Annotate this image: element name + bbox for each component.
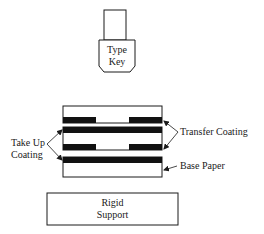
type-key-label: Type Key <box>99 44 135 68</box>
base-paper-label: Base Paper <box>180 160 225 172</box>
transfer-coating-band-top <box>129 117 162 123</box>
type-key-stem <box>104 10 126 40</box>
take-up-coating-band-middle <box>63 127 162 133</box>
rigid-support-line2: Support <box>47 209 178 221</box>
transfer-coating-band-middle <box>63 144 96 150</box>
transfer-coating-label: Transfer Coating <box>180 126 248 138</box>
take-up-line1: Take Up <box>11 137 45 149</box>
rigid-support-line1: Rigid <box>47 197 178 209</box>
take-up-coating-arrows <box>47 130 62 160</box>
type-key-line1: Type <box>99 44 135 56</box>
type-key-line2: Key <box>99 56 135 68</box>
take-up-coating-label: Take Up Coating <box>11 137 45 161</box>
transfer-coating-arrows <box>164 121 178 149</box>
rigid-support-label: Rigid Support <box>47 197 178 221</box>
diagram-canvas: Type Key Transfer Coating Take Up Coatin… <box>0 0 264 234</box>
take-up-line2: Coating <box>11 149 45 161</box>
base-paper-arrow <box>164 166 177 170</box>
take-up-coating-band-bottom <box>63 157 162 163</box>
base-paper-sheet <box>63 157 162 177</box>
top-sheet <box>63 106 162 123</box>
transfer-coating-band-middle <box>129 144 162 150</box>
transfer-coating-band-top <box>63 117 96 123</box>
middle-sheet <box>63 127 162 150</box>
